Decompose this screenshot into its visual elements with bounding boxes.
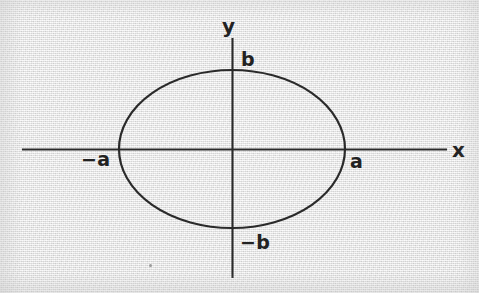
ellipse-figure: y x b −b a −a xyxy=(0,0,479,293)
b-intercept-label: b xyxy=(241,50,255,69)
x-axis-label: x xyxy=(452,140,465,160)
a-intercept-label: a xyxy=(350,152,363,171)
negative-a-intercept-label: −a xyxy=(81,150,110,169)
negative-b-intercept-label: −b xyxy=(240,233,270,252)
y-axis-label: y xyxy=(222,16,235,36)
